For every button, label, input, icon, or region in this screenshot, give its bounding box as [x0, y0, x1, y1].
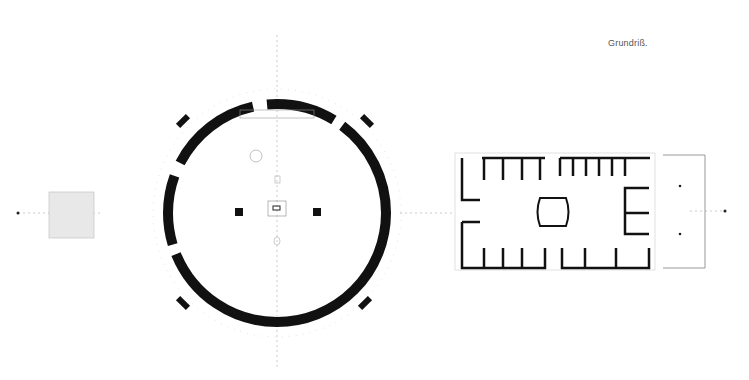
axis-point-left	[17, 212, 20, 215]
small-square-outbuilding	[49, 192, 94, 238]
floor-plan-drawing	[0, 0, 749, 380]
rectangular-building	[455, 153, 655, 270]
axis-point-right	[724, 210, 727, 213]
axis-lines	[18, 35, 725, 370]
open-courtyard	[663, 155, 705, 268]
